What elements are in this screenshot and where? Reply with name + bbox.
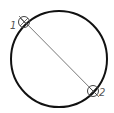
diagram-canvas: 1 2	[0, 0, 114, 113]
point-label-1: 1	[10, 20, 16, 31]
main-circle	[11, 11, 107, 107]
diameter-line	[19, 16, 99, 97]
point-label-2: 2	[99, 87, 105, 98]
point-marker-2: 2	[88, 86, 106, 99]
